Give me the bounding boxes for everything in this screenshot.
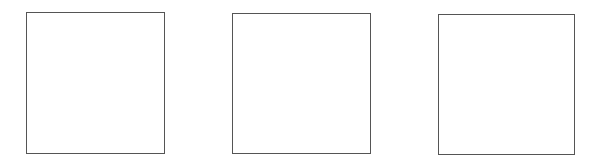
empty-square-box-2 [232, 13, 371, 154]
diagram-canvas [0, 0, 596, 163]
empty-square-box-3 [438, 14, 575, 155]
empty-square-box-1 [26, 12, 165, 154]
